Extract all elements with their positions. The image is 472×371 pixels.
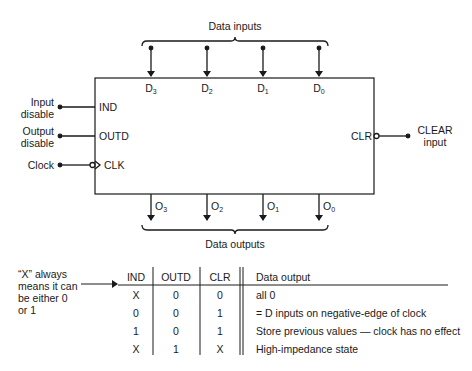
table-cell: 0 [156, 307, 196, 319]
table-cell: X [116, 289, 156, 301]
header-clr: CLR [200, 271, 240, 283]
data-inputs-title: Data inputs [195, 20, 275, 32]
header-ind: IND [116, 271, 156, 283]
pin-o1: O1 [267, 200, 279, 216]
inputs-brace [142, 37, 328, 46]
pin-d0: D0 [309, 82, 329, 98]
table-cell: all 0 [256, 289, 275, 301]
table-cell: = D inputs on negative-edge of clock [256, 307, 426, 319]
header-data-output: Data output [256, 271, 310, 283]
pin-o3: O3 [155, 200, 167, 216]
clock-label: Clock [0, 159, 54, 171]
table-cell: 0 [200, 289, 240, 301]
header-outd: OUTD [156, 271, 196, 283]
table-cell: 0 [156, 289, 196, 301]
output-disable-label: Output disable [0, 125, 54, 149]
pin-clk: CLK [104, 159, 124, 171]
table-cell: 1 [200, 307, 240, 319]
table-cell: 1 [156, 343, 196, 355]
table-cell: Store previous values — clock has no eff… [256, 325, 460, 337]
table-cell: 0 [116, 307, 156, 319]
data-outputs-title: Data outputs [195, 238, 275, 250]
pin-o0: O0 [323, 200, 335, 216]
pin-d1: D1 [253, 82, 273, 98]
table-cell: 1 [116, 325, 156, 337]
input-disable-label: Input disable [0, 96, 54, 120]
table-cell: 0 [156, 325, 196, 337]
pin-clr: CLR [340, 130, 372, 142]
pin-d2: D2 [197, 82, 217, 98]
table-cell: X [200, 343, 240, 355]
pin-d3: D3 [141, 82, 161, 98]
clear-input-label: CLEAR input [410, 124, 460, 148]
x-note: “X” always means it can be either 0 or 1 [18, 268, 78, 316]
pin-ind: IND [99, 101, 117, 113]
register-box [95, 78, 374, 194]
table-cell: High-impedance state [256, 343, 358, 355]
output-arrows [151, 194, 319, 220]
pin-o2: O2 [211, 200, 223, 216]
outputs-brace [142, 225, 328, 234]
pin-outd: OUTD [99, 130, 129, 142]
table-cell: 1 [200, 325, 240, 337]
input-arrows [149, 46, 321, 76]
table-cell: X [116, 343, 156, 355]
